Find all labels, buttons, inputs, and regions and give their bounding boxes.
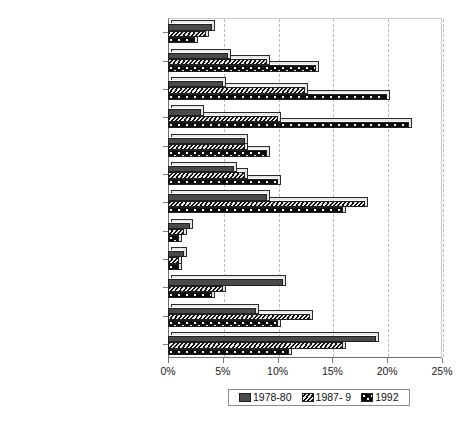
horizontal-bar-chart: Commercial communicationsTele/data commu…: [0, 0, 467, 428]
bar-side-face: [234, 162, 237, 172]
bar-side-face: [376, 332, 379, 342]
bar-side-face: [184, 247, 187, 257]
bar-top-face: [171, 105, 204, 108]
bar-side-face: [267, 55, 270, 65]
bar: [168, 223, 194, 229]
bar-front-face: [168, 286, 223, 292]
x-axis-tick: [223, 358, 224, 363]
x-axis-label: 5%: [203, 366, 243, 377]
bar-front-face: [168, 122, 409, 128]
bar-front-face: [168, 138, 245, 144]
bar-side-face: [256, 304, 259, 314]
bar-front-face: [168, 53, 228, 59]
bar: [168, 320, 282, 326]
bar-front-face: [168, 292, 212, 298]
bar-side-face: [245, 134, 248, 144]
bar-top-face: [171, 134, 248, 137]
bar-front-face: [168, 229, 184, 235]
bar: [168, 65, 320, 71]
bar-top-face: [171, 332, 379, 335]
x-axis-tick: [442, 358, 443, 363]
gridline: [388, 19, 389, 357]
bar: [168, 308, 260, 314]
bar-side-face: [283, 275, 286, 285]
bar: [168, 59, 271, 65]
bar: [168, 336, 380, 342]
bar: [168, 31, 210, 37]
x-axis-tick: [168, 358, 169, 363]
legend-swatch: [361, 393, 373, 402]
legend-item: 1992: [361, 392, 398, 403]
bar: [168, 292, 216, 298]
bar-side-face: [387, 90, 390, 100]
bar: [168, 207, 347, 213]
bar-front-face: [168, 251, 184, 257]
chart-legend: 1978-801987- 91992: [228, 389, 410, 406]
bar-front-face: [168, 314, 310, 320]
bar: [168, 144, 249, 150]
legend-label: 1978-80: [253, 392, 292, 403]
legend-swatch: [302, 393, 314, 402]
bar: [168, 314, 314, 320]
bar: [168, 286, 227, 292]
bar-front-face: [168, 308, 256, 314]
bar: [168, 37, 199, 43]
bar-front-face: [168, 150, 267, 156]
bar: [168, 116, 282, 122]
bar: [168, 109, 205, 115]
bar: [168, 166, 238, 172]
bar-top-face: [171, 304, 259, 307]
bar-front-face: [168, 336, 376, 342]
bar-front-face: [168, 37, 195, 43]
bar-side-face: [267, 190, 270, 200]
bar: [168, 342, 347, 348]
x-axis-tick: [278, 358, 279, 363]
bar-side-face: [228, 49, 231, 59]
bar-side-face: [305, 83, 308, 93]
x-axis-label: 0%: [148, 366, 188, 377]
bar-side-face: [365, 197, 368, 207]
bar-top-face: [171, 275, 286, 278]
bar-front-face: [168, 116, 278, 122]
bar: [168, 235, 183, 241]
bar: [168, 24, 216, 30]
bar-side-face: [245, 168, 248, 178]
bar-front-face: [168, 279, 283, 285]
bar: [168, 122, 413, 128]
bar-top-face: [171, 162, 237, 165]
bar-front-face: [168, 257, 179, 263]
bar-side-face: [316, 61, 319, 71]
bar-front-face: [168, 109, 201, 115]
legend-label: 1987- 9: [316, 392, 352, 403]
legend-item: 1987- 9: [302, 392, 352, 403]
bar-side-face: [310, 310, 313, 320]
bar-front-face: [168, 194, 267, 200]
x-axis-label: 15%: [312, 366, 352, 377]
bar-front-face: [168, 87, 305, 93]
bar-front-face: [168, 264, 179, 270]
x-axis-label: 10%: [258, 366, 298, 377]
bar-front-face: [168, 166, 234, 172]
bar: [168, 349, 293, 355]
bar-side-face: [278, 175, 281, 185]
bar: [168, 138, 249, 144]
x-axis-label: 20%: [367, 366, 407, 377]
bar-front-face: [168, 65, 316, 71]
bar: [168, 229, 188, 235]
legend-item: 1978-80: [239, 392, 292, 403]
bar: [168, 251, 188, 257]
bar-side-face: [223, 77, 226, 87]
bar-front-face: [168, 94, 387, 100]
bar: [168, 53, 232, 59]
bar-front-face: [168, 59, 267, 65]
bar-side-face: [267, 146, 270, 156]
bar-front-face: [168, 31, 206, 37]
gridline: [333, 19, 334, 357]
bar: [168, 172, 249, 178]
bar-top-face: [171, 20, 215, 23]
bar-top-face: [171, 190, 270, 193]
bar: [168, 179, 282, 185]
bar-front-face: [168, 172, 245, 178]
gridline: [443, 19, 444, 357]
bar: [168, 150, 271, 156]
